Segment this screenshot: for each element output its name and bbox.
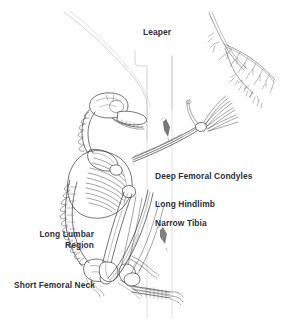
label-narrow-tibia: Narrow Tibia [155, 218, 207, 229]
label-deep-femoral-condyles: Deep Femoral Condyles [155, 171, 253, 182]
label-long-lumbar-region: Long Lumbar Region [12, 229, 94, 250]
figure-canvas: .ink { fill:none; stroke:#3a3a3a; stroke… [0, 0, 282, 329]
label-leaper: Leaper [143, 27, 171, 38]
label-long-hindlimb: Long Hindlimb [155, 199, 215, 210]
label-short-femoral-neck: Short Femoral Neck [14, 280, 95, 291]
